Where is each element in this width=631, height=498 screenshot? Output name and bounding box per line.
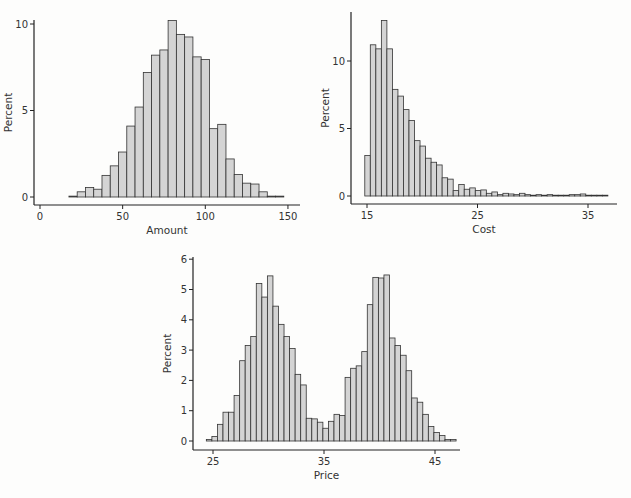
histogram-bar	[77, 192, 85, 197]
histogram-bar	[206, 439, 212, 441]
histogram-bar	[152, 55, 160, 197]
histogram-bar	[168, 21, 176, 197]
histogram-bar	[301, 385, 307, 441]
x-axis-label: Price	[314, 469, 340, 481]
histogram-bar	[586, 195, 592, 196]
histogram-bar	[251, 184, 259, 197]
x-tick-label: 25	[471, 210, 484, 221]
histogram-bar	[119, 152, 127, 197]
y-tick-label: 0	[22, 192, 28, 203]
histogram-bar	[312, 419, 318, 441]
histogram-bar	[218, 124, 226, 197]
y-tick-label: 0	[339, 191, 345, 202]
histogram-bar	[85, 187, 93, 197]
histogram-bar	[245, 346, 251, 441]
histogram-bar	[580, 194, 586, 196]
histogram-bar	[536, 195, 542, 196]
histogram-bar	[464, 189, 470, 196]
histogram-bar	[234, 396, 240, 441]
x-tick-label: 100	[196, 211, 215, 222]
histogram-bar	[381, 21, 387, 197]
y-axis-label: Percent	[319, 88, 331, 128]
histogram-bar	[519, 193, 525, 196]
histogram-bar	[558, 195, 564, 196]
histogram-bar	[217, 424, 223, 441]
histogram-bar	[328, 421, 334, 441]
histogram-bar	[201, 59, 209, 197]
y-tick-label: 10	[332, 56, 345, 67]
histogram-bar	[575, 195, 581, 196]
histogram-bar	[345, 377, 351, 441]
histogram-bar	[542, 195, 548, 196]
histogram-bar	[240, 361, 246, 441]
histogram-bar	[356, 366, 362, 441]
histogram-bar	[229, 412, 235, 441]
histogram-bar	[384, 275, 390, 441]
histogram-bar	[415, 141, 421, 196]
histogram-bar	[365, 156, 371, 197]
histogram-bar	[102, 175, 110, 197]
y-tick-label: 4	[181, 314, 187, 325]
histogram-bar	[323, 428, 329, 441]
x-tick-label: 15	[361, 210, 374, 221]
histogram-bar	[406, 371, 412, 441]
x-tick-label: 25	[207, 456, 220, 467]
x-tick-label: 150	[278, 211, 297, 222]
histogram-bar	[256, 283, 262, 441]
histogram-bar	[434, 433, 440, 441]
histogram-bar	[451, 439, 457, 441]
y-tick-label: 10	[15, 19, 28, 30]
y-tick-label: 5	[339, 123, 345, 134]
y-tick-label: 2	[181, 375, 187, 386]
y-tick-label: 1	[181, 405, 187, 416]
histogram-bar	[426, 158, 432, 196]
histogram-bar	[340, 416, 346, 441]
y-axis-label: Percent	[2, 93, 14, 133]
cost-histogram: 0510152535CostPercent	[319, 12, 617, 235]
histogram-bar	[273, 306, 279, 441]
histogram-bar	[514, 195, 520, 196]
histogram-bar	[448, 179, 454, 196]
histogram-bar	[284, 336, 290, 441]
histogram-bar	[439, 436, 445, 441]
histogram-bar	[547, 195, 553, 196]
histogram-bar	[234, 175, 242, 197]
histogram-bar	[401, 355, 407, 441]
histogram-bar	[242, 183, 250, 197]
histogram-bar	[193, 57, 201, 197]
histogram-bar	[267, 276, 273, 441]
histogram-bar	[395, 346, 401, 441]
histogram-bar	[290, 349, 296, 441]
histogram-bar	[431, 162, 437, 196]
histogram-bar	[370, 45, 376, 196]
histogram-bar	[470, 188, 476, 196]
histogram-bar	[442, 178, 448, 196]
histogram-bar	[362, 352, 368, 441]
histogram-bar	[481, 190, 487, 196]
histogram-bar	[569, 195, 575, 196]
histogram-bar	[412, 398, 418, 441]
x-tick-label: 35	[582, 210, 595, 221]
histogram-bar	[259, 192, 267, 197]
histogram-bar	[160, 50, 168, 197]
price-histogram: 0123456253545PricePercent	[161, 254, 460, 481]
histogram-bar	[564, 195, 570, 196]
histogram-bar	[276, 196, 284, 197]
histogram-bar	[295, 374, 301, 441]
histogram-bar	[306, 418, 312, 441]
histogram-bar	[525, 195, 531, 196]
histogram-bar	[437, 165, 443, 196]
histogram-bar	[223, 412, 229, 441]
histogram-bar	[553, 195, 559, 196]
histogram-bar	[591, 195, 597, 196]
histogram-bar	[226, 159, 234, 197]
histogram-bar	[503, 193, 509, 196]
histogram-bar	[209, 129, 217, 197]
histogram-bar	[376, 49, 382, 196]
histogram-bar	[428, 426, 434, 441]
histogram-bar	[389, 338, 395, 441]
amount-histogram: 0510050100150AmountPercent	[2, 19, 300, 237]
histogram-bar	[94, 189, 102, 197]
histogram-bar	[367, 305, 373, 441]
histogram-bar	[278, 324, 284, 441]
